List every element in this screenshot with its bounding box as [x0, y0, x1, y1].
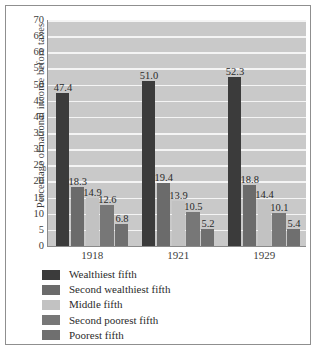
- legend-item-4[interactable]: Second poorest fifth: [42, 313, 272, 328]
- x-axis-tick-label: 1921: [167, 249, 189, 261]
- legend-item-5[interactable]: Poorest fifth: [42, 328, 272, 343]
- legend-label: Wealthiest fifth: [69, 269, 137, 280]
- bar[interactable]: 52.3: [228, 77, 241, 246]
- legend-swatch-icon: [42, 270, 60, 280]
- bar[interactable]: 18.3: [71, 187, 84, 246]
- bar[interactable]: 13.9: [172, 201, 185, 246]
- bar[interactable]: 18.8: [243, 185, 256, 246]
- y-axis-tick-label: 60: [34, 47, 45, 58]
- y-axis-tick-label: 65: [34, 31, 45, 42]
- y-axis-tick-label: 10: [34, 208, 45, 219]
- legend-item-1[interactable]: Wealthiest fifth: [42, 267, 272, 282]
- y-axis-tick-label: 15: [34, 192, 45, 203]
- y-axis-tick-label: 70: [34, 15, 45, 26]
- x-axis-tick-label: 1918: [81, 249, 103, 261]
- x-axis-tick-label: 1929: [253, 249, 275, 261]
- y-axis-tick-label: 55: [34, 63, 45, 74]
- y-axis-tick-label: 20: [34, 176, 45, 187]
- plot-area: 47.418.314.912.66.851.019.413.910.55.252…: [48, 20, 306, 246]
- chart-plot-region: Percentage of national income before tax…: [6, 6, 310, 254]
- bar-value-label: 6.8: [115, 213, 128, 224]
- y-axis-tick-label: 40: [34, 112, 45, 123]
- bar-value-label: 5.4: [287, 218, 300, 229]
- x-axis-tick-labels: 191819211929: [48, 249, 306, 267]
- legend-swatch-icon: [42, 330, 60, 340]
- bar-value-label: 10.5: [184, 201, 202, 212]
- bar-group-1929: 52.318.814.410.15.4: [220, 20, 306, 246]
- bar[interactable]: 51.0: [142, 81, 155, 246]
- bar-value-label: 18.3: [69, 176, 87, 187]
- bar[interactable]: 47.4: [56, 93, 69, 246]
- legend-item-3[interactable]: Middle fifth: [42, 297, 272, 312]
- legend-swatch-icon: [42, 315, 60, 325]
- bar[interactable]: 12.6: [100, 205, 113, 246]
- legend-label: Second wealthiest fifth: [69, 284, 170, 295]
- bar[interactable]: 14.9: [86, 198, 99, 246]
- y-axis-tick-label: 35: [34, 128, 45, 139]
- y-axis-tick-label: 45: [34, 95, 45, 106]
- bar[interactable]: 19.4: [157, 183, 170, 246]
- y-axis-tick-label: 25: [34, 160, 45, 171]
- bar-value-label: 12.6: [98, 194, 116, 205]
- bar-group-1918: 47.418.314.912.66.8: [48, 20, 134, 246]
- y-axis-tick-label: 50: [34, 79, 45, 90]
- legend-item-2[interactable]: Second wealthiest fifth: [42, 282, 272, 297]
- legend-swatch-icon: [42, 285, 60, 295]
- bar-group-1921: 51.019.413.910.55.2: [134, 20, 220, 246]
- y-axis-tick-label: 30: [34, 144, 45, 155]
- y-axis-tick-label: 0: [39, 241, 44, 252]
- bar[interactable]: 10.1: [272, 213, 285, 246]
- bar[interactable]: 10.5: [186, 212, 199, 246]
- bar-value-label: 14.4: [255, 189, 273, 200]
- bar-value-label: 13.9: [169, 190, 187, 201]
- legend-label: Middle fifth: [69, 299, 122, 310]
- chart-legend: Wealthiest fifthSecond wealthiest fifthM…: [42, 267, 272, 343]
- x-axis-line: [47, 246, 306, 247]
- bar-value-label: 52.3: [226, 66, 244, 77]
- y-axis-tick-labels: 0510152025303540455055606570: [18, 20, 44, 246]
- bar[interactable]: 6.8: [115, 224, 128, 246]
- legend-label: Second poorest fifth: [69, 315, 158, 326]
- legend-swatch-icon: [42, 300, 60, 310]
- bar-value-label: 19.4: [155, 172, 173, 183]
- bar[interactable]: 5.2: [201, 229, 214, 246]
- bar-value-label: 10.1: [270, 202, 288, 213]
- bar[interactable]: 5.4: [287, 229, 300, 246]
- bar-value-label: 47.4: [54, 82, 72, 93]
- bar-value-label: 18.8: [241, 174, 259, 185]
- y-axis-tick-label: 5: [39, 225, 44, 236]
- bar[interactable]: 14.4: [258, 200, 271, 246]
- legend-label: Poorest fifth: [69, 330, 124, 341]
- bar-value-label: 5.2: [201, 218, 214, 229]
- bar-value-label: 51.0: [140, 70, 158, 81]
- chart-figure: Percentage of national income before tax…: [5, 5, 311, 345]
